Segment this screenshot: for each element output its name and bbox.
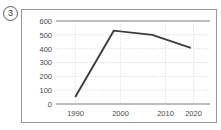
y-tick-label-200: 200 <box>39 72 52 81</box>
x-axis-tick-labels: 1990 2000 2010 2020 <box>67 109 202 118</box>
y-tick-label-100: 100 <box>39 86 52 95</box>
y-tick-label-400: 400 <box>39 45 52 54</box>
y-tick-label-300: 300 <box>39 58 52 67</box>
x-tick-label-2020: 2020 <box>185 109 202 118</box>
y-tick-label-600: 600 <box>39 17 52 26</box>
chart-panel: 600 500 400 300 200 100 0 1990 2000 2010… <box>21 9 217 123</box>
item-number-badge: 3 <box>3 6 18 21</box>
x-tick-label-2010: 2010 <box>157 109 174 118</box>
x-tick-label-1990: 1990 <box>67 109 84 118</box>
y-tick-label-500: 500 <box>39 31 52 40</box>
data-series-line <box>75 31 191 97</box>
chart-figure: 3 600 <box>0 0 221 130</box>
plot-area: 600 500 400 300 200 100 0 1990 2000 2010… <box>22 10 216 122</box>
line-chart-svg: 600 500 400 300 200 100 0 1990 2000 2010… <box>22 10 216 122</box>
y-tick-label-0: 0 <box>48 100 52 109</box>
y-axis-tick-labels: 600 500 400 300 200 100 0 <box>39 17 52 109</box>
x-tick-label-2000: 2000 <box>112 109 129 118</box>
